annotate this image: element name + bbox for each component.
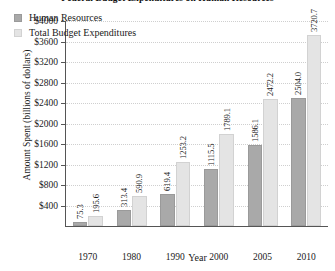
- y-tick-label: $3200: [34, 57, 58, 67]
- bar-series-container: 75.3195.6313.4590.9619.41253.21115.51789…: [66, 21, 328, 226]
- y-tick-label: $1600: [34, 139, 58, 149]
- bar-value-label: 1253.2: [178, 136, 188, 159]
- y-tick-label: $400: [39, 201, 58, 211]
- bar-total-budget-expenditures-1970: 195.6: [88, 216, 103, 226]
- bar-value-label: 195.6: [90, 194, 100, 213]
- legend: Human Resources Total Budget Expenditure…: [14, 10, 136, 40]
- bar-total-budget-expenditures-2010: 3720.7: [307, 35, 322, 226]
- bar-human-resources-1990: 619.4: [160, 194, 175, 226]
- y-tick-label: $800: [39, 180, 58, 190]
- bar-total-budget-expenditures-1990: 1253.2: [176, 162, 191, 226]
- bar-human-resources-1970: 75.3: [73, 222, 88, 226]
- bar-total-budget-expenditures-2005: 2472.2: [263, 99, 278, 226]
- chart-title: Federal Budget Expenditures on Human Res…: [0, 0, 335, 3]
- bar-value-label: 2504.0: [293, 72, 303, 95]
- bar-human-resources-2000: 1115.5: [204, 169, 219, 226]
- x-axis-label: Year: [60, 252, 335, 263]
- y-tick-label: $1200: [34, 160, 58, 170]
- bar-value-label: 2472.2: [265, 73, 275, 96]
- bar-human-resources-2005: 1586.1: [248, 145, 263, 226]
- bar-value-label: 619.4: [162, 172, 172, 191]
- y-tick-label: $2400: [34, 98, 58, 108]
- bar-value-label: 590.9: [134, 174, 144, 193]
- legend-label-total-budget-expenditures: Total Budget Expenditures: [29, 27, 136, 38]
- y-tick-label: $2000: [34, 119, 58, 129]
- bar-value-label: 3720.7: [309, 9, 319, 32]
- y-axis-label: Amount Spent (billions of dollars): [22, 30, 32, 200]
- legend-label-human-resources: Human Resources: [29, 12, 102, 23]
- bar-total-budget-expenditures-1980: 590.9: [132, 196, 147, 226]
- plot-area: $400$800$1200$1600$2000$2400$2800$3200$3…: [65, 21, 328, 227]
- bar-chart: Federal Budget Expenditures on Human Res…: [0, 0, 335, 271]
- bar-human-resources-1980: 313.4: [117, 210, 132, 226]
- bar-value-label: 1789.1: [221, 108, 231, 131]
- bar-value-label: 75.3: [75, 205, 85, 220]
- y-tick-label: $2800: [34, 78, 58, 88]
- legend-swatch-icon-human-resources: [14, 14, 22, 22]
- bar-value-label: 1115.5: [206, 143, 216, 165]
- bar-value-label: 1586.1: [249, 119, 259, 142]
- bar-total-budget-expenditures-2000: 1789.1: [219, 134, 234, 226]
- legend-item-human-resources: Human Resources: [14, 10, 136, 25]
- legend-item-total-budget-expenditures: Total Budget Expenditures: [14, 25, 136, 40]
- bar-value-label: 313.4: [118, 188, 128, 207]
- legend-swatch-icon-total-budget-expenditures: [14, 29, 22, 37]
- bar-human-resources-2010: 2504.0: [291, 98, 306, 226]
